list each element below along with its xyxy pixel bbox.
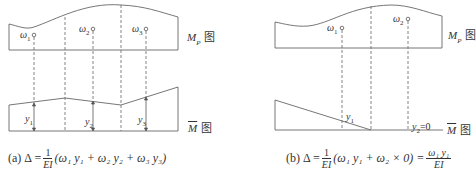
formula-lhs-a: Δ = bbox=[24, 151, 41, 166]
formula-result-fraction-b: ω₁ y₁ EI bbox=[426, 147, 451, 170]
area-label-omega2-a: ω2 bbox=[79, 24, 90, 37]
mp-outline-b bbox=[275, 5, 442, 48]
formula-prefix-a: (a) bbox=[8, 151, 21, 166]
formula-b: (b) Δ = 1 EI (ω₁ y₁ + ω₂ × 0) = ω₁ y₁ EI bbox=[286, 143, 453, 173]
ordinate-label-y1-a: y1 bbox=[25, 114, 33, 127]
ordinate-label-y2-a: y2 bbox=[85, 117, 93, 130]
formula-prefix-b: (b) bbox=[286, 151, 300, 166]
area-label-omega1-a: ω1 bbox=[20, 30, 31, 43]
mp-diagram-label-b: MP 图 bbox=[448, 26, 476, 45]
formula-fraction-a: 1 EI bbox=[43, 147, 52, 170]
centroid-markers-a bbox=[32, 27, 148, 37]
area-label-omega3-a: ω3 bbox=[132, 24, 143, 37]
area-label-omega2-b: ω2 bbox=[393, 14, 404, 27]
mbar-diagram-label-a: M 图 bbox=[188, 119, 212, 135]
ordinate-label-y2-b: y2=0 bbox=[412, 122, 431, 135]
ordinate-label-y1-b: y1 bbox=[346, 112, 354, 125]
mbar-triangle-b bbox=[275, 100, 371, 130]
formula-body-a: (ω₁ y₁ + ω₂ y₂ + ω₃ y₃) bbox=[55, 151, 167, 166]
formula-fraction-b: 1 EI bbox=[322, 147, 331, 170]
formula-lhs-b: Δ = bbox=[303, 151, 320, 166]
mbar-diagram-label-b: M 图 bbox=[447, 121, 471, 137]
area-label-omega1-b: ω1 bbox=[327, 23, 338, 36]
mp-diagram-b bbox=[275, 5, 442, 48]
ordinate-label-y3-a: y3 bbox=[138, 115, 146, 128]
mp-diagram-label-a: MP 图 bbox=[187, 28, 215, 47]
formula-body-b: (ω₁ y₁ + ω₂ × 0) = bbox=[333, 151, 424, 166]
formula-a: (a) Δ = 1 EI (ω₁ y₁ + ω₂ y₂ + ω₃ y₃) bbox=[8, 143, 166, 173]
projection-lines-a bbox=[34, 31, 146, 103]
